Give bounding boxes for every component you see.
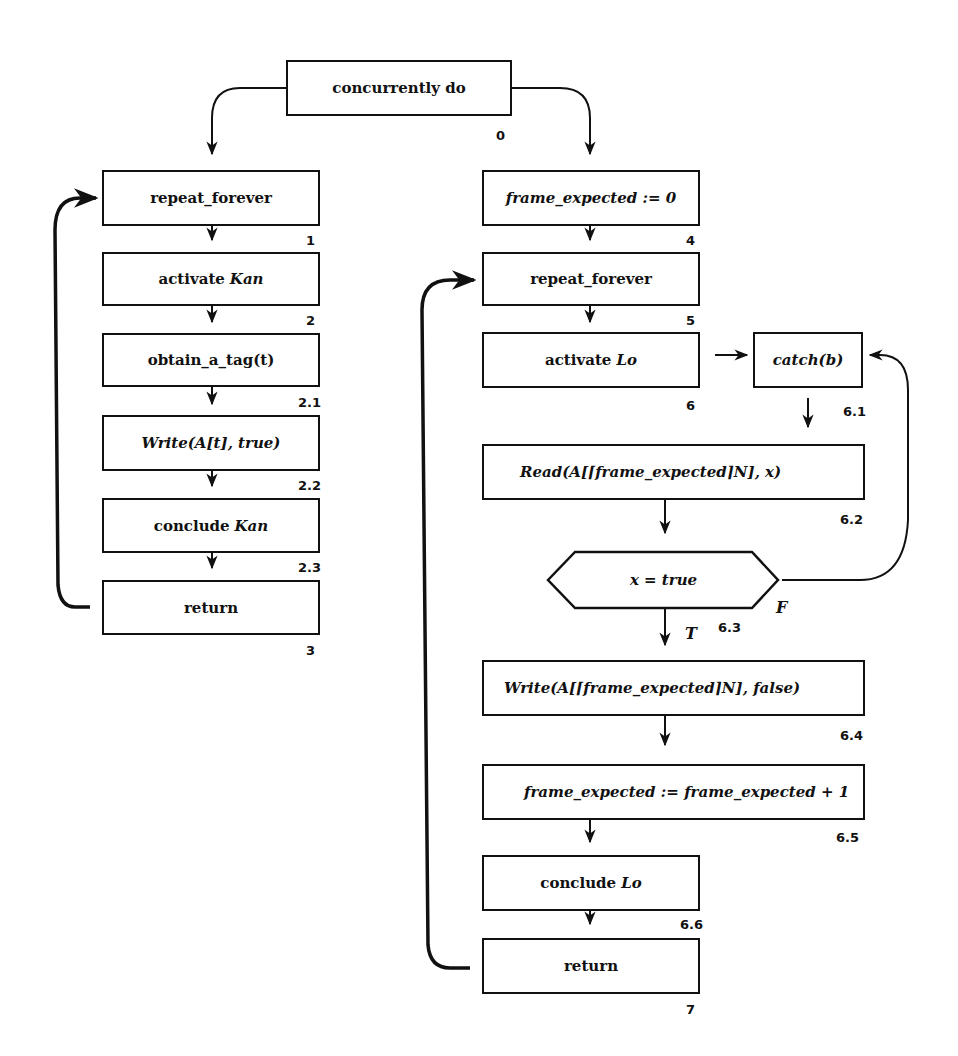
node-label: repeat_forever <box>150 189 272 207</box>
node-label: frame_expected := frame_expected + 1 <box>524 783 849 801</box>
node-label-var: Lo <box>616 351 637 369</box>
node-label-var: Kan <box>230 270 264 288</box>
node-label-prefix: conclude <box>540 874 616 892</box>
node-label-var: Lo <box>621 874 642 892</box>
node-frame-expected-increment: frame_expected := frame_expected + 1 <box>482 764 865 820</box>
step-number-5: 5 <box>686 313 695 328</box>
node-concurrently-do: concurrently do <box>286 60 512 116</box>
step-number-4: 4 <box>686 233 695 248</box>
step-number-6-4: 6.4 <box>840 728 863 743</box>
step-number-6-2: 6.2 <box>840 512 863 527</box>
edge-loop-right <box>422 280 474 968</box>
step-number-2-2: 2.2 <box>298 478 321 493</box>
node-return-left: return <box>102 580 320 635</box>
node-label: catch(b) <box>773 351 844 369</box>
node-label: Write(A[⌈frame_expected⌉N], false) <box>504 679 800 697</box>
node-label: x = true <box>630 571 697 589</box>
step-number-3: 3 <box>306 643 315 658</box>
node-write-tag-true: Write(A[t], true) <box>102 415 320 471</box>
node-repeat-forever-left: repeat_forever <box>102 170 320 226</box>
node-label: return <box>184 599 238 617</box>
false-label: F <box>776 598 787 617</box>
edge-root-to-repeat-left <box>212 88 286 154</box>
node-read-frame: Read(A[⌈frame_expected⌉N], x) <box>482 444 865 500</box>
step-number-7: 7 <box>686 1002 695 1017</box>
node-label: return <box>564 957 618 975</box>
node-conclude-lo: conclude Lo <box>482 855 700 911</box>
node-label: obtain_a_tag(t) <box>148 351 275 369</box>
edge-root-to-frame-init <box>512 88 590 154</box>
node-label-prefix: activate <box>158 270 224 288</box>
node-activate-kan: activate Kan <box>102 252 320 306</box>
node-return-right: return <box>482 938 700 994</box>
node-conclude-kan: conclude Kan <box>102 498 320 553</box>
node-label: frame_expected := 0 <box>506 189 677 207</box>
step-number-6-5: 6.5 <box>836 830 859 845</box>
step-number-6: 6 <box>686 398 695 413</box>
node-catch-b: catch(b) <box>753 332 863 388</box>
edge-loop-left <box>55 198 96 607</box>
node-label-var: Kan <box>235 517 269 535</box>
step-number-2-3: 2.3 <box>298 560 321 575</box>
node-activate-lo: activate Lo <box>482 332 700 388</box>
decision-x-equals-true: x = true <box>575 552 752 608</box>
node-label-prefix: conclude <box>154 517 230 535</box>
node-label: concurrently do <box>332 79 465 97</box>
true-label: T <box>685 624 697 643</box>
step-number-6-1: 6.1 <box>843 404 866 419</box>
step-number-6-3: 6.3 <box>718 620 741 635</box>
node-label: Read(A[⌈frame_expected⌉N], x) <box>520 463 781 481</box>
node-repeat-forever-right: repeat_forever <box>482 252 700 306</box>
node-label: repeat_forever <box>530 270 652 288</box>
step-number-2: 2 <box>306 313 315 328</box>
step-number-1: 1 <box>306 233 315 248</box>
node-label-prefix: activate <box>545 351 611 369</box>
node-obtain-a-tag: obtain_a_tag(t) <box>102 333 320 387</box>
node-write-frame-false: Write(A[⌈frame_expected⌉N], false) <box>482 660 865 716</box>
step-number-0: 0 <box>496 128 505 143</box>
node-frame-expected-init: frame_expected := 0 <box>482 170 700 226</box>
node-label: Write(A[t], true) <box>142 434 281 452</box>
step-number-6-6: 6.6 <box>680 917 703 932</box>
step-number-2-1: 2.1 <box>298 395 321 410</box>
